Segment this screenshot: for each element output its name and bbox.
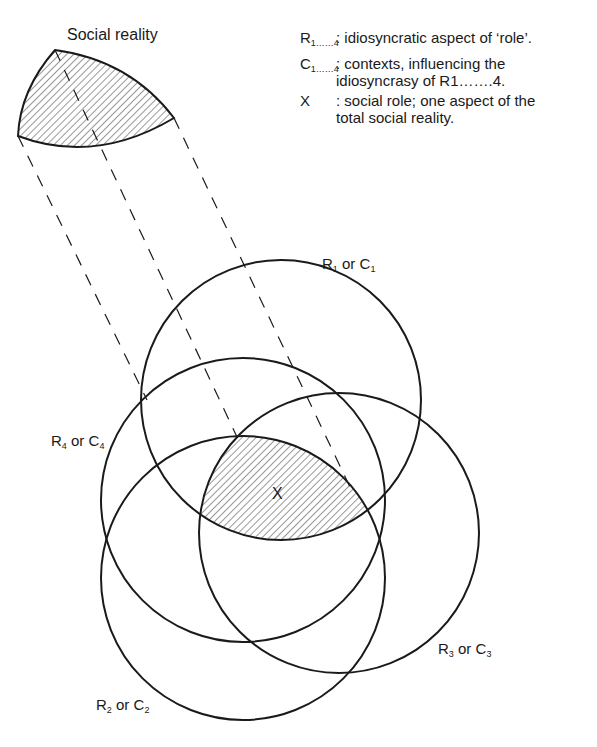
legend-row-c: C1……4 : contexts, influencing the idiosy…	[300, 55, 576, 89]
legend-row-r: R1……4 : idiosyncratic aspect of ‘role’.	[300, 29, 576, 52]
legend: R1……4 : idiosyncratic aspect of ‘role’. …	[300, 29, 576, 126]
social-role-x-label: X	[272, 486, 283, 502]
social-reality-shape	[18, 50, 174, 147]
legend-desc: : social role; one aspect of the total s…	[336, 92, 561, 126]
legend-desc: : contexts, influencing the idiosyncrasy…	[336, 55, 536, 89]
intersection-x-region	[199, 393, 479, 673]
label-r2: R2 or C2	[96, 697, 149, 715]
label-r1: R1 or C1	[322, 256, 375, 274]
legend-row-x: X : social role; one aspect of the total…	[300, 92, 576, 126]
social-reality-title: Social reality	[67, 27, 158, 43]
legend-desc: : idiosyncratic aspect of ‘role’.	[336, 29, 576, 52]
label-r4: R4 or C4	[51, 433, 104, 451]
label-r3: R3 or C3	[438, 641, 491, 659]
